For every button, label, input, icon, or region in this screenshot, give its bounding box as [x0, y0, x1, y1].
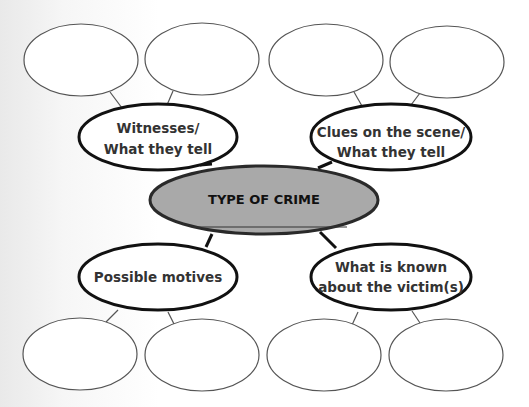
branch-victim[interactable]: What is known about the victim(s)	[311, 244, 471, 310]
clues-sub-node-1[interactable]	[269, 24, 383, 96]
connector-victim-sub1	[352, 312, 358, 325]
motives-sub-node-1[interactable]	[23, 318, 137, 390]
branch-witnesses[interactable]: Witnesses/ What they tell	[79, 104, 237, 170]
victim-label-line2: about the victim(s)	[318, 279, 464, 295]
victim-sub-node-2[interactable]	[389, 319, 503, 391]
motives-sub-node-2[interactable]	[145, 319, 259, 391]
center-node-group[interactable]: TYPE OF CRIME	[150, 166, 378, 234]
witnesses-node[interactable]	[79, 104, 237, 170]
connector-clues-sub2	[411, 93, 420, 105]
bottom-sub-nodes	[23, 318, 503, 391]
connector-motives-sub2	[168, 312, 174, 324]
witnesses-label-line2: What they tell	[104, 141, 212, 157]
witnesses-sub-node-1[interactable]	[24, 24, 138, 96]
clues-label-line2: What they tell	[337, 144, 445, 160]
witnesses-sub-node-2[interactable]	[145, 23, 259, 95]
connector-center-clues	[318, 162, 332, 168]
connector-victim-sub2	[412, 311, 420, 323]
motives-label: Possible motives	[94, 269, 222, 285]
clues-label-line1: Clues on the scene/	[317, 124, 466, 140]
center-label: TYPE OF CRIME	[208, 192, 320, 207]
branch-motives[interactable]: Possible motives	[79, 244, 237, 310]
connector-motives-sub1	[106, 310, 118, 322]
victim-node[interactable]	[311, 244, 471, 310]
victim-sub-node-1[interactable]	[267, 319, 381, 391]
victim-label-line1: What is known	[335, 259, 447, 275]
connector-witnesses-sub1	[110, 92, 122, 108]
connector-center-victim	[320, 232, 336, 248]
witnesses-label-line1: Witnesses/	[117, 120, 200, 136]
connector-center-motives	[206, 234, 212, 247]
top-sub-nodes	[24, 23, 504, 98]
clues-sub-node-2[interactable]	[390, 26, 504, 98]
crime-mind-map: Witnesses/ What they tell Clues on the s…	[0, 0, 529, 407]
branch-clues[interactable]: Clues on the scene/ What they tell	[311, 104, 471, 170]
connector-clues-sub1	[354, 92, 362, 106]
